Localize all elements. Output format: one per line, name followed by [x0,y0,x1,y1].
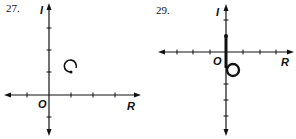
figure-29: 29. I R O [148,0,296,139]
origin-label: O [213,55,222,67]
axis-label-real: R [127,100,135,112]
axis-label-real: R [281,56,289,68]
complex-plane-graph [148,0,296,139]
loop-curve [227,64,239,76]
figure-27: 27. I R O [0,0,148,139]
axis-label-imaginary: I [216,6,219,18]
axis-label-imaginary: I [40,4,43,16]
origin-label: O [38,98,47,110]
loop-curve [64,60,76,72]
complex-plane-graph [0,0,148,139]
